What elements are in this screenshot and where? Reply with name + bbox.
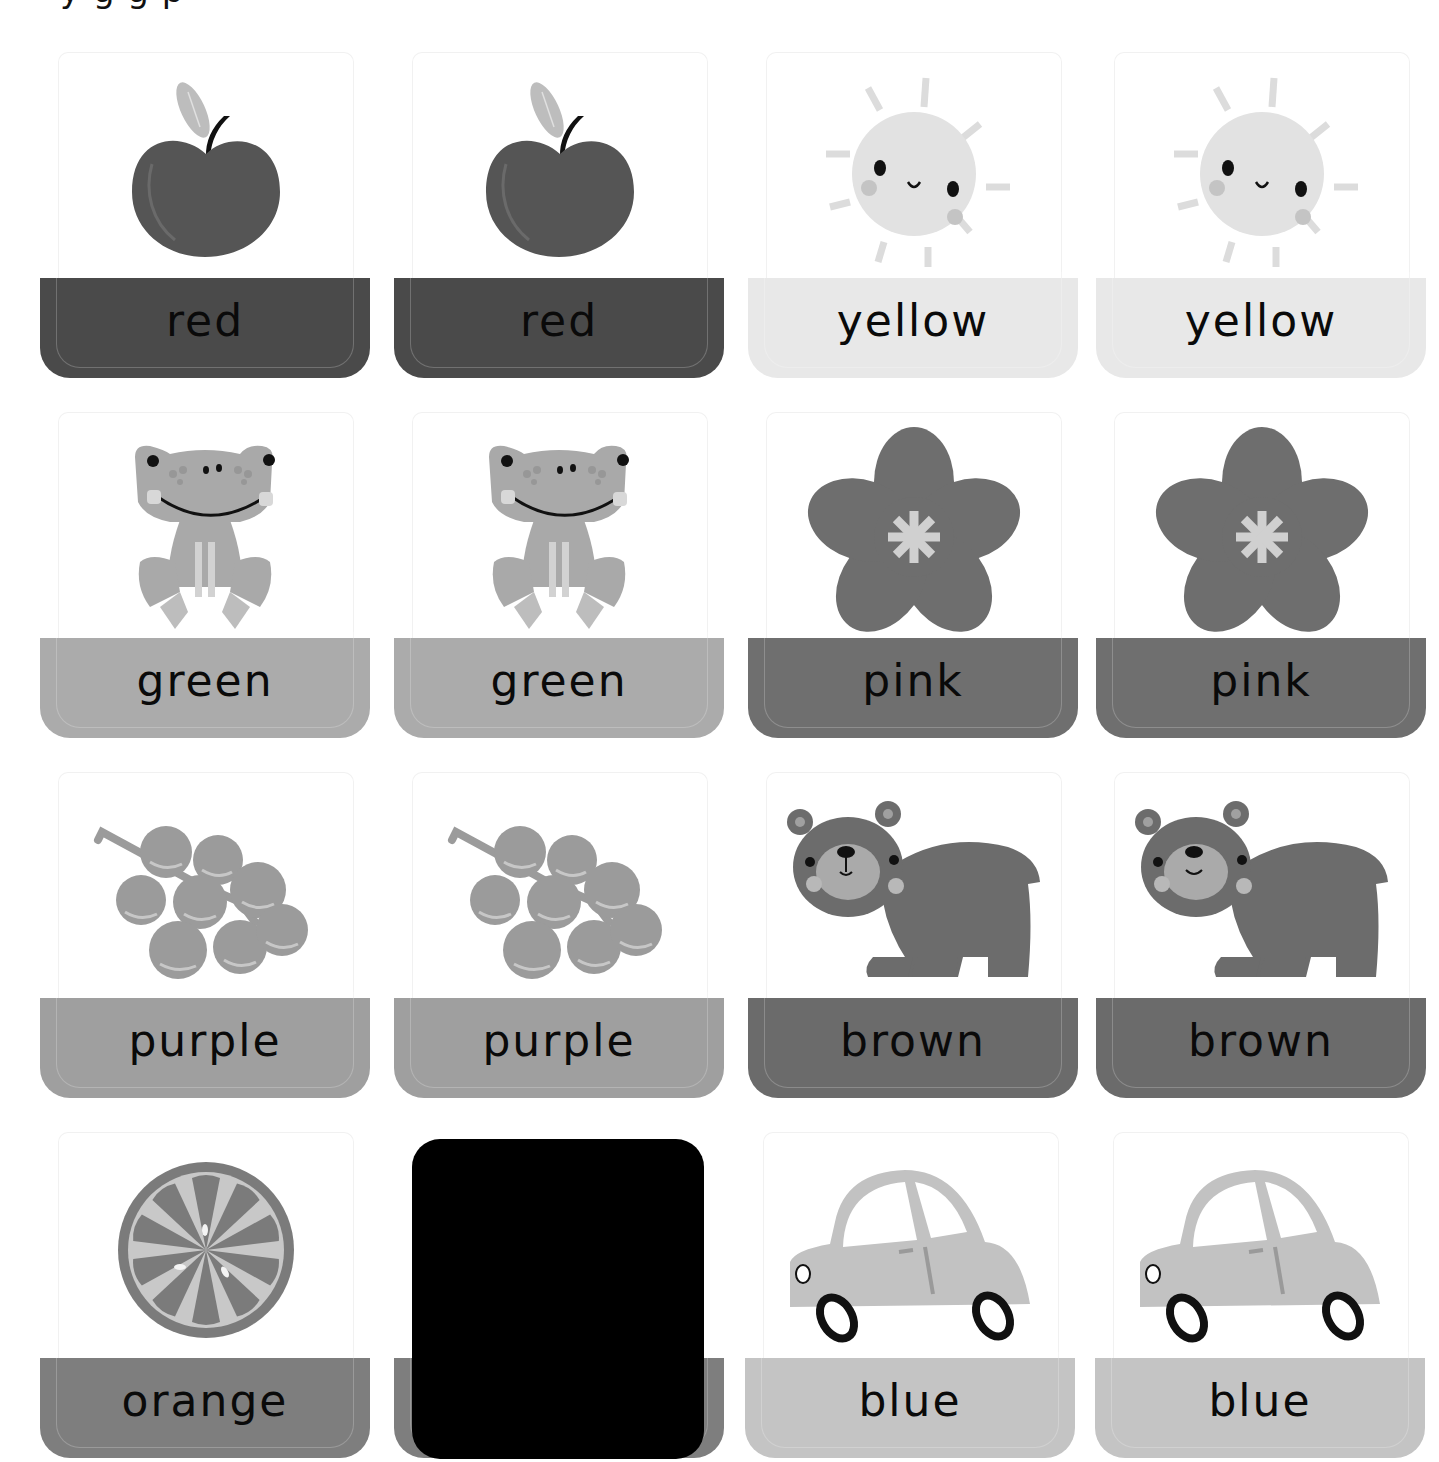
- label-band: purple: [40, 998, 370, 1098]
- card-label: yellow: [837, 295, 989, 346]
- frog-icon: [394, 412, 724, 642]
- grapes-icon: [40, 772, 370, 1002]
- label-band: pink: [748, 638, 1078, 738]
- card-orange-2[interactable]: [394, 1132, 724, 1462]
- redaction-block: [412, 1139, 704, 1459]
- label-band: yellow: [748, 278, 1078, 378]
- card-label: brown: [840, 1015, 986, 1066]
- label-band: red: [394, 278, 724, 378]
- card-pink-1[interactable]: pink: [748, 412, 1078, 742]
- bear-icon: [1096, 772, 1426, 1002]
- card-label: purple: [482, 1015, 635, 1066]
- card-label: brown: [1188, 1015, 1334, 1066]
- card-pink-2[interactable]: pink: [1096, 412, 1426, 742]
- label-band: blue: [1095, 1358, 1425, 1458]
- card-red-1[interactable]: red: [40, 52, 370, 382]
- label-band: yellow: [1096, 278, 1426, 378]
- card-orange-1[interactable]: orange: [40, 1132, 370, 1462]
- sun-icon: [748, 52, 1078, 282]
- card-label: green: [490, 655, 627, 706]
- card-blue-2[interactable]: blue: [1095, 1132, 1425, 1462]
- card-green-2[interactable]: green: [394, 412, 724, 742]
- label-band: green: [394, 638, 724, 738]
- card-purple-2[interactable]: purple: [394, 772, 724, 1102]
- card-yellow-2[interactable]: yellow: [1096, 52, 1426, 382]
- label-band: brown: [748, 998, 1078, 1098]
- card-red-2[interactable]: red: [394, 52, 724, 382]
- clipped-instruction-text: y g g p: [0, 0, 1439, 10]
- frog-icon: [40, 412, 370, 642]
- card-label: blue: [858, 1375, 961, 1426]
- label-band: brown: [1096, 998, 1426, 1098]
- card-yellow-1[interactable]: yellow: [748, 52, 1078, 382]
- sun-icon: [1096, 52, 1426, 282]
- card-blue-1[interactable]: blue: [745, 1132, 1075, 1462]
- orange-slice-icon: [40, 1132, 370, 1362]
- card-label: red: [166, 295, 244, 346]
- card-label: green: [136, 655, 273, 706]
- bear-icon: [748, 772, 1078, 1002]
- card-label: blue: [1208, 1375, 1311, 1426]
- label-band: purple: [394, 998, 724, 1098]
- car-icon: [1095, 1132, 1425, 1362]
- card-label: pink: [1210, 655, 1312, 706]
- card-label: yellow: [1185, 295, 1337, 346]
- label-band: pink: [1096, 638, 1426, 738]
- card-brown-1[interactable]: brown: [748, 772, 1078, 1102]
- car-icon: [745, 1132, 1075, 1362]
- apple-icon: [40, 52, 370, 282]
- card-green-1[interactable]: green: [40, 412, 370, 742]
- card-brown-2[interactable]: brown: [1096, 772, 1426, 1102]
- label-band: green: [40, 638, 370, 738]
- flower-icon: [1096, 412, 1426, 642]
- card-label: orange: [122, 1375, 289, 1426]
- apple-icon: [394, 52, 724, 282]
- label-band: blue: [745, 1358, 1075, 1458]
- card-purple-1[interactable]: purple: [40, 772, 370, 1102]
- card-label: red: [520, 295, 598, 346]
- flower-icon: [748, 412, 1078, 642]
- label-band: red: [40, 278, 370, 378]
- card-label: pink: [862, 655, 964, 706]
- card-label: purple: [128, 1015, 281, 1066]
- grapes-icon: [394, 772, 724, 1002]
- label-band: orange: [40, 1358, 370, 1458]
